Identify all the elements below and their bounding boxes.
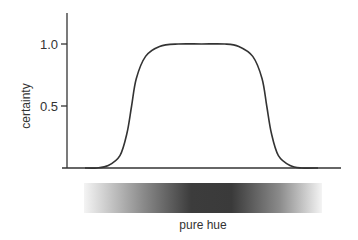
y-tick-label: 0.5 [40,99,58,114]
y-tick-label: 1.0 [40,37,58,52]
axes [62,13,341,168]
hue-gradient-bar [84,183,322,213]
certainty-curve [85,44,318,168]
y-ticks: 1.00.5 [40,37,67,114]
chart: 1.00.5 certainty pure hue [0,0,358,240]
y-axis-label: certainty [19,83,33,128]
x-axis-label: pure hue [179,218,227,232]
